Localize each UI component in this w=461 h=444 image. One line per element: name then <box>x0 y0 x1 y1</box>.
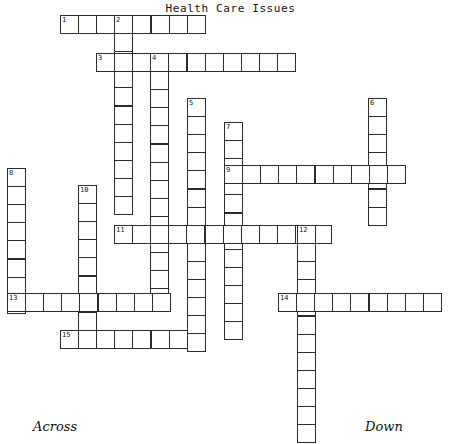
crossword-cell[interactable] <box>150 225 169 244</box>
crossword-cell[interactable] <box>278 293 297 312</box>
crossword-cell[interactable] <box>405 293 424 312</box>
crossword-cell[interactable] <box>297 388 316 407</box>
crossword-cell[interactable] <box>224 165 243 184</box>
crossword-cell[interactable] <box>369 293 388 312</box>
crossword-cell[interactable] <box>116 293 135 312</box>
crossword-cell[interactable] <box>259 225 278 244</box>
crossword-cell[interactable] <box>7 240 26 259</box>
crossword-cell[interactable] <box>205 53 224 72</box>
crossword-cell[interactable] <box>78 312 97 331</box>
crossword-cell[interactable] <box>114 142 133 161</box>
crossword-cell[interactable] <box>114 106 133 125</box>
crossword-cell[interactable] <box>151 15 170 34</box>
crossword-cell[interactable] <box>187 15 206 34</box>
crossword-cell[interactable] <box>368 207 387 226</box>
crossword-cell[interactable] <box>368 189 387 208</box>
crossword-cell[interactable] <box>224 122 243 141</box>
crossword-cell[interactable] <box>114 196 133 215</box>
crossword-cell[interactable] <box>333 165 352 184</box>
crossword-cell[interactable] <box>78 221 97 240</box>
crossword-cell[interactable] <box>114 124 133 143</box>
crossword-cell[interactable] <box>150 162 169 181</box>
crossword-cell[interactable] <box>150 180 169 199</box>
crossword-cell[interactable] <box>350 293 369 312</box>
crossword-cell[interactable] <box>134 293 153 312</box>
crossword-cell[interactable] <box>78 185 97 204</box>
crossword-cell[interactable] <box>241 225 260 244</box>
crossword-cell[interactable] <box>132 225 151 244</box>
crossword-cell[interactable] <box>224 194 243 213</box>
crossword-cell[interactable] <box>78 330 97 349</box>
crossword-cell[interactable] <box>387 293 406 312</box>
crossword-cell[interactable] <box>7 168 26 187</box>
crossword-cell[interactable] <box>297 225 316 244</box>
crossword-cell[interactable] <box>96 53 115 72</box>
crossword-cell[interactable] <box>368 98 387 117</box>
crossword-cell[interactable] <box>187 261 206 280</box>
crossword-cell[interactable] <box>297 243 316 262</box>
crossword-cell[interactable] <box>150 107 169 126</box>
crossword-cell[interactable] <box>78 276 97 295</box>
crossword-cell[interactable] <box>223 225 242 244</box>
crossword-cell[interactable] <box>369 165 388 184</box>
crossword-cell[interactable] <box>150 53 169 72</box>
crossword-cell[interactable] <box>297 261 316 280</box>
crossword-cell[interactable] <box>296 293 315 312</box>
crossword-cell[interactable] <box>43 293 62 312</box>
crossword-cell[interactable] <box>114 178 133 197</box>
crossword-cell[interactable] <box>224 303 243 322</box>
crossword-cell[interactable] <box>297 352 316 371</box>
crossword-cell[interactable] <box>224 267 243 286</box>
crossword-cell[interactable] <box>297 370 316 389</box>
crossword-cell[interactable] <box>114 69 133 88</box>
crossword-cell[interactable] <box>296 165 315 184</box>
crossword-cell[interactable] <box>169 15 188 34</box>
crossword-cell[interactable] <box>387 165 406 184</box>
crossword-cell[interactable] <box>150 144 169 163</box>
crossword-cell[interactable] <box>168 53 187 72</box>
crossword-cell[interactable] <box>187 297 206 316</box>
crossword-cell[interactable] <box>150 198 169 217</box>
crossword-cell[interactable] <box>132 53 151 72</box>
crossword-cell[interactable] <box>224 321 243 340</box>
crossword-cell[interactable] <box>205 225 224 244</box>
crossword-cell[interactable] <box>114 330 133 349</box>
crossword-cell[interactable] <box>132 330 151 349</box>
crossword-grid[interactable]: 123456789101112131415 <box>0 0 461 444</box>
crossword-cell[interactable] <box>79 293 98 312</box>
crossword-cell[interactable] <box>297 424 316 443</box>
crossword-cell[interactable] <box>114 33 133 52</box>
crossword-cell[interactable] <box>260 165 279 184</box>
crossword-cell[interactable] <box>259 53 278 72</box>
crossword-cell[interactable] <box>224 285 243 304</box>
crossword-cell[interactable] <box>187 333 206 352</box>
crossword-cell[interactable] <box>224 140 243 159</box>
crossword-cell[interactable] <box>314 293 333 312</box>
crossword-cell[interactable] <box>168 225 187 244</box>
crossword-cell[interactable] <box>186 225 205 244</box>
crossword-cell[interactable] <box>7 222 26 241</box>
crossword-cell[interactable] <box>187 152 206 171</box>
crossword-cell[interactable] <box>114 87 133 106</box>
crossword-cell[interactable] <box>187 134 206 153</box>
crossword-cell[interactable] <box>7 293 26 312</box>
crossword-cell[interactable] <box>60 15 79 34</box>
crossword-cell[interactable] <box>25 293 44 312</box>
crossword-cell[interactable] <box>114 15 133 34</box>
crossword-cell[interactable] <box>297 334 316 353</box>
crossword-cell[interactable] <box>169 330 188 349</box>
crossword-cell[interactable] <box>187 116 206 135</box>
crossword-cell[interactable] <box>187 189 206 208</box>
crossword-cell[interactable] <box>351 165 370 184</box>
crossword-cell[interactable] <box>78 203 97 222</box>
crossword-cell[interactable] <box>187 279 206 298</box>
crossword-cell[interactable] <box>315 165 334 184</box>
crossword-cell[interactable] <box>224 249 243 268</box>
crossword-cell[interactable] <box>332 293 351 312</box>
crossword-cell[interactable] <box>242 165 261 184</box>
crossword-cell[interactable] <box>187 170 206 189</box>
crossword-cell[interactable] <box>187 315 206 334</box>
crossword-cell[interactable] <box>368 134 387 153</box>
crossword-cell[interactable] <box>423 293 442 312</box>
crossword-cell[interactable] <box>96 15 115 34</box>
